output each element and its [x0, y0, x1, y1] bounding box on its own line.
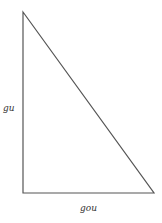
vertical-side-label: gu [3, 104, 15, 113]
right-triangle [0, 0, 162, 223]
triangle-shape [23, 12, 154, 193]
horizontal-side-label: gou [80, 204, 97, 213]
